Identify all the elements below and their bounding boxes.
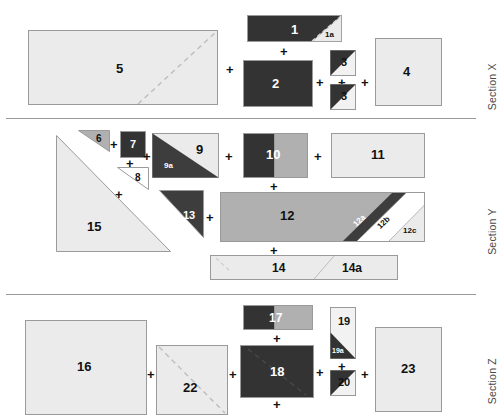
plus-operator: +: [314, 150, 322, 163]
shape-3-bottom[interactable]: 3: [330, 84, 356, 110]
shape-12[interactable]: 12 12a 12b 12c: [220, 192, 425, 242]
shape-11[interactable]: 11: [331, 133, 425, 178]
section-x-divider: [6, 118, 476, 119]
section-z-label: Section Z: [486, 358, 498, 404]
plus-operator: +: [226, 63, 234, 76]
shape-15[interactable]: 15: [56, 135, 171, 252]
plus-operator: +: [273, 398, 281, 411]
shape-20[interactable]: 20: [330, 370, 356, 396]
shape-13[interactable]: 13: [159, 190, 204, 238]
shape-18[interactable]: 18: [240, 345, 314, 398]
section-x-label: Section X: [486, 63, 498, 110]
shape-5[interactable]: 5: [28, 30, 218, 105]
shape-10[interactable]: 10: [243, 133, 308, 178]
shape-14[interactable]: 14 14a: [210, 255, 398, 280]
plus-operator: +: [206, 211, 214, 224]
shape-19[interactable]: 19 19a: [330, 307, 356, 359]
shape-16[interactable]: 16: [25, 320, 147, 415]
shape-1[interactable]: 1 1a: [247, 15, 342, 42]
section-y-divider: [6, 294, 476, 295]
shape-4[interactable]: 4: [375, 38, 442, 106]
shape-22[interactable]: 22: [156, 345, 228, 415]
section-y-label: Section Y: [486, 208, 498, 255]
plus-operator: +: [225, 150, 233, 163]
plus-operator: +: [361, 76, 369, 89]
shape-3-top[interactable]: 3: [330, 50, 356, 76]
plus-operator: +: [273, 332, 281, 345]
plus-operator: +: [361, 368, 369, 381]
plus-operator: +: [229, 368, 237, 381]
plus-operator: +: [147, 368, 155, 381]
shape-2[interactable]: 2: [243, 60, 313, 107]
plus-operator: +: [316, 76, 324, 89]
plus-operator: +: [280, 45, 288, 58]
shape-17[interactable]: 17: [243, 305, 313, 330]
shape-23[interactable]: 23: [375, 327, 442, 412]
plus-operator: +: [316, 366, 324, 379]
